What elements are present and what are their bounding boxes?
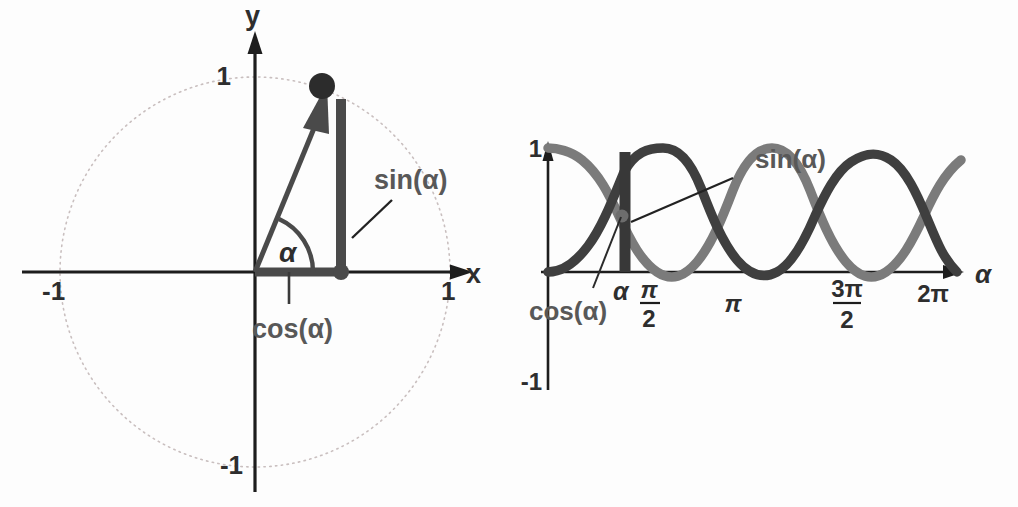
perpendicular-foot-marker [333,264,349,280]
wave-cos-marker [616,210,629,223]
tick-pi-half-numerator: π [640,276,658,303]
wave-x-tick-pi-half: π 2 [640,276,660,332]
wave-y-tick-neg1: -1 [521,368,542,395]
wave-x-tick-2pi: 2π [917,280,949,307]
point-on-circle [309,73,335,99]
wave-sin-label: sin(α) [755,144,826,174]
wave-y-tick-pos1: 1 [529,135,542,162]
figure-canvas: x y -1 1 1 -1 α sin(α) cos(α) α 1 -1 α s… [0,0,1018,507]
wave-cos-label: cos(α) [529,296,607,326]
y-axis-label: y [245,1,260,31]
tick-pi-half-denominator: 2 [642,305,655,332]
sine-cosine-plot: α 1 -1 α sin(α) cos(α) π 2 π 3π 2 2π [509,0,1018,507]
sin-label: sin(α) [374,165,448,195]
angle-label-alpha: α [279,237,298,268]
y-tick-label-neg1: -1 [220,450,243,480]
tick-3pi-half-numerator: 3π [831,275,863,302]
wave-x-tick-3pi-half: 3π 2 [831,275,863,333]
cos-label: cos(α) [252,314,333,344]
sin-label-leader-line [352,200,392,238]
wave-angle-label-alpha: α [613,277,630,305]
wave-x-tick-pi: π [724,290,742,317]
tick-3pi-half-denominator: 2 [840,306,853,333]
x-tick-label-neg1: -1 [42,276,65,306]
y-tick-label-pos1: 1 [217,61,231,91]
x-tick-label-pos1: 1 [441,276,455,306]
wave-sin-label-leader-line [631,178,733,222]
unit-circle-diagram: x y -1 1 1 -1 α sin(α) cos(α) [0,0,509,507]
x-axis-label: x [466,259,481,289]
y-axis-arrowhead [248,31,263,54]
wave-x-axis-label: α [975,259,993,289]
